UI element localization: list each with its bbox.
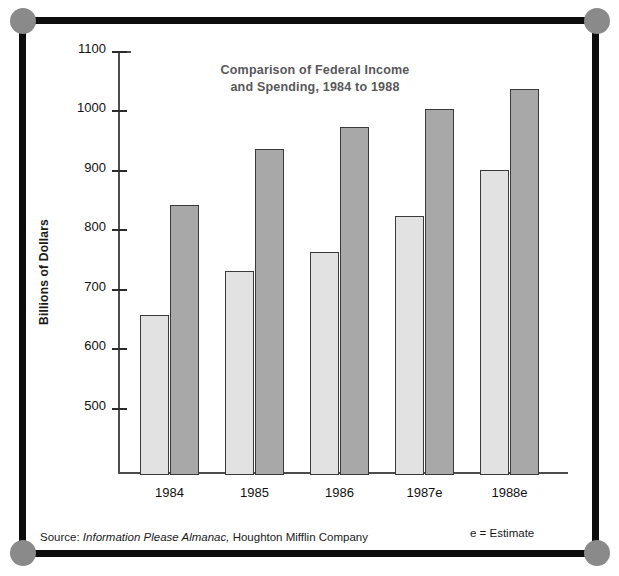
bar-income-1986 (310, 252, 339, 475)
y-tick-label: 600 (60, 338, 106, 353)
y-tick-label: 900 (60, 160, 106, 175)
x-axis-label-1985: 1985 (211, 485, 298, 500)
source-publisher: Houghton Mifflin Company (233, 531, 368, 543)
x-axis-label-1987e: 1987e (381, 485, 468, 500)
plot-area: 11001000900800700600500 1984198519861987… (118, 45, 568, 475)
y-tick-label: 800 (60, 219, 106, 234)
bar-spending-1984 (170, 205, 199, 475)
y-tick-mark (112, 289, 127, 291)
y-tick-label: 700 (60, 279, 106, 294)
y-tick-mark (112, 51, 127, 53)
bar-spending-1988e (510, 89, 539, 475)
y-tick-600: 600 (118, 348, 133, 350)
source-prefix: Source: (40, 531, 80, 543)
bar-income-1988e (480, 170, 509, 475)
bar-income-1985 (225, 271, 254, 475)
x-axis-label-1986: 1986 (296, 485, 383, 500)
y-tick-label: 500 (60, 398, 106, 413)
bar-spending-1987e (425, 109, 454, 475)
y-tick-label: 1100 (60, 41, 106, 56)
y-tick-1000: 1000 (118, 110, 133, 112)
y-tick-500: 500 (118, 408, 133, 410)
y-tick-800: 800 (118, 229, 133, 231)
y-tick-900: 900 (118, 170, 133, 172)
y-axis-label: Billions of Dollars (37, 192, 51, 352)
bar-income-1984 (140, 315, 169, 475)
bar-chart: Comparison of Federal Income and Spendin… (0, 0, 619, 576)
y-tick-1100: 1100 (118, 51, 133, 53)
source-note: Source: Information Please Almanac, Houg… (40, 531, 368, 543)
y-tick-mark (112, 408, 127, 410)
x-axis-label-1984: 1984 (126, 485, 213, 500)
chart-page: Comparison of Federal Income and Spendin… (0, 0, 619, 576)
y-tick-mark (112, 229, 127, 231)
estimate-legend-note: e = Estimate (470, 527, 534, 539)
y-tick-mark (112, 170, 127, 172)
bar-spending-1986 (340, 127, 369, 475)
y-tick-mark (112, 348, 127, 350)
y-tick-mark (112, 110, 127, 112)
bar-income-1987e (395, 216, 424, 475)
y-tick-700: 700 (118, 289, 133, 291)
bar-spending-1985 (255, 149, 284, 475)
source-publication: Information Please Almanac, (83, 531, 230, 543)
y-tick-label: 1000 (60, 100, 106, 115)
x-axis-label-1988e: 1988e (466, 485, 553, 500)
